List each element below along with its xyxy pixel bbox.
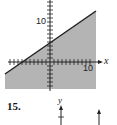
x-axis-label: x	[104, 56, 108, 66]
next-problem-y-arrow-icon	[59, 105, 63, 110]
problem-number: 15.	[7, 100, 21, 112]
x-axis-arrow-icon	[98, 60, 103, 64]
next-problem-y-label: y	[58, 96, 62, 105]
y-tick-label-10: 10	[36, 17, 46, 26]
x-tick-label-10: 10	[83, 64, 93, 73]
next-problem-line-arrow-icon	[97, 109, 101, 114]
